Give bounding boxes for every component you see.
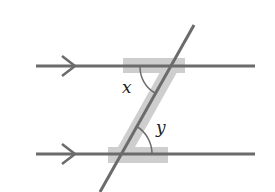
angle-x-label: x xyxy=(122,77,132,97)
alternate-angles-diagram: x y xyxy=(0,0,275,192)
transversal-line xyxy=(100,25,194,192)
angle-y-label: y xyxy=(155,117,166,137)
